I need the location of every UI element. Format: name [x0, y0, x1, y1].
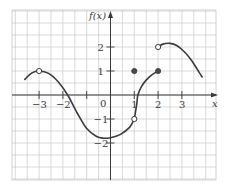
x-axis-label: x	[212, 98, 218, 109]
y-axis-label: f(x)	[88, 10, 106, 21]
x-tick-label: −2	[56, 99, 71, 110]
function-curve-segment	[158, 43, 202, 77]
filled-point-marker	[156, 68, 161, 73]
x-tick-label: 3	[179, 99, 185, 110]
filled-point-marker	[132, 68, 137, 73]
open-point-marker	[132, 116, 137, 121]
open-point-marker	[37, 68, 42, 73]
y-tick-label: 2	[98, 42, 104, 53]
x-axis-arrow-icon	[211, 93, 218, 98]
function-curves	[25, 43, 202, 138]
y-axis-arrow-icon	[108, 11, 113, 18]
function-graph: −3−2123−2−112 x f(x) 0	[0, 0, 226, 192]
open-point-marker	[156, 44, 161, 49]
x-tick-label: −3	[32, 99, 47, 110]
origin-label: 0	[100, 98, 106, 109]
y-tick-label: −2	[94, 138, 109, 149]
x-tick-label: 2	[155, 99, 161, 110]
y-tick-label: 1	[98, 66, 104, 77]
y-tick-label: −1	[94, 114, 109, 125]
